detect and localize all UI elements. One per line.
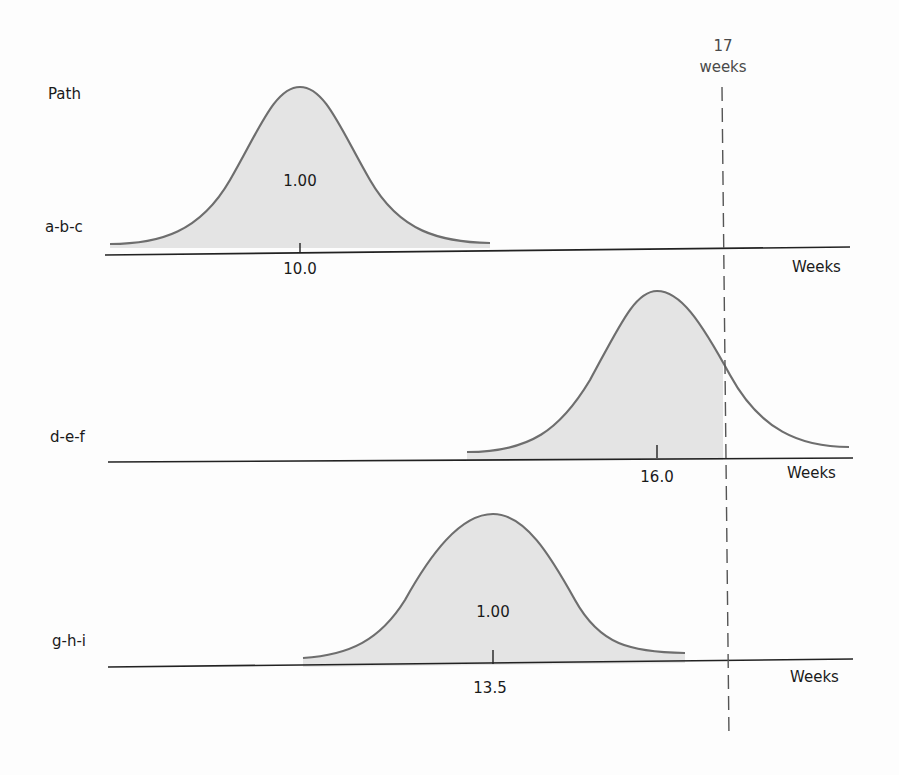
axis-a-b-c xyxy=(105,247,850,255)
threshold-unit: weeks xyxy=(699,58,746,76)
threshold-value: 17 xyxy=(713,37,732,55)
axis-label-a-b-c: Weeks xyxy=(792,258,841,276)
curve-a-b-c xyxy=(110,87,490,248)
mean-d-e-f: 16.0 xyxy=(640,468,673,486)
path-distribution-diagram xyxy=(0,0,899,775)
path-label-d-e-f: d-e-f xyxy=(50,428,85,446)
threshold-line xyxy=(722,87,729,738)
mean-a-b-c: 10.0 xyxy=(283,260,316,278)
path-column-label: Path xyxy=(48,85,81,103)
path-label-g-h-i: g-h-i xyxy=(52,632,86,650)
probability-g-h-i: 1.00 xyxy=(476,603,509,621)
path-label-a-b-c: a-b-c xyxy=(45,218,83,236)
probability-a-b-c: 1.00 xyxy=(283,172,316,190)
axis-label-d-e-f: Weeks xyxy=(787,464,836,482)
axis-label-g-h-i: Weeks xyxy=(790,668,839,686)
curve-d-e-f-shaded xyxy=(467,291,849,460)
mean-g-h-i: 13.5 xyxy=(473,679,506,697)
